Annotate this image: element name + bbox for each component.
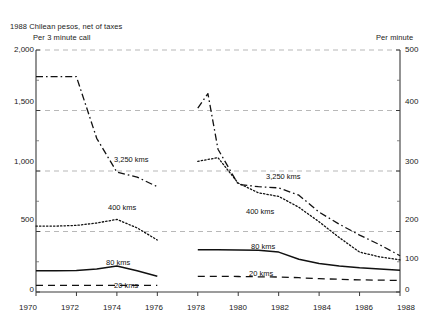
series-line-80-kms: [198, 250, 400, 271]
plot-canvas: [0, 0, 435, 325]
series-line-400-kms: [198, 158, 400, 260]
chart-root: 1988 Chilean pesos, net of taxes Per 3 m…: [0, 0, 435, 325]
series-line-80-kms: [36, 266, 157, 276]
series-line-20-kms: [198, 276, 400, 280]
series-line-3-250-kms: [36, 77, 157, 187]
series-line-400-kms: [36, 219, 157, 240]
